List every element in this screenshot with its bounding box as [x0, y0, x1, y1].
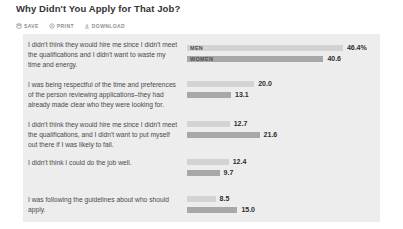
women-bar: [187, 170, 220, 176]
download-icon: [84, 23, 90, 29]
men-bar-line: 20.0: [187, 80, 272, 87]
women-value: 15.0: [241, 206, 255, 213]
toolbar: SAVE PRINT DOWNLOAD: [16, 23, 125, 29]
page: Why Didn't You Apply for That Job? SAVE …: [0, 0, 403, 229]
men-bar: MEN: [187, 45, 343, 51]
question-label: I was following the guidelines about who…: [28, 195, 180, 215]
women-bar-line: 21.6: [187, 131, 277, 138]
question-label: I didn't think they would hire me since …: [28, 120, 180, 150]
men-series-label: MEN: [190, 45, 203, 51]
women-bar: [187, 92, 231, 98]
chart-panel: I didn't think they would hire me since …: [23, 34, 380, 222]
bar-group: 8.5 15.0: [187, 195, 255, 217]
women-value: 21.6: [264, 131, 278, 138]
question-label: I didn't think they would hire me since …: [28, 40, 180, 70]
chart-row: I was being respectful of the time and p…: [28, 80, 380, 110]
bar-group: 12.7 21.6: [187, 120, 277, 142]
men-value: 20.0: [258, 80, 272, 87]
download-button[interactable]: DOWNLOAD: [84, 23, 125, 29]
women-bar: WOMEN: [187, 56, 323, 62]
chart-rows: I didn't think they would hire me since …: [28, 40, 380, 217]
bar-group: 12.4 9.7: [187, 158, 246, 180]
page-title: Why Didn't You Apply for That Job?: [16, 3, 180, 14]
men-value: 46.4%: [347, 44, 367, 51]
question-label: I was being respectful of the time and p…: [28, 80, 180, 110]
bar-group: 20.0 13.1: [187, 80, 272, 102]
men-bar-line: 12.7: [187, 120, 277, 127]
women-bar: [187, 132, 260, 138]
chart-row: I didn't think they would hire me since …: [28, 40, 380, 70]
men-value: 8.5: [220, 195, 230, 202]
women-value: 9.7: [224, 169, 234, 176]
men-bar: [187, 159, 229, 165]
women-value: 13.1: [235, 91, 249, 98]
chart-row: I was following the guidelines about who…: [28, 195, 380, 217]
women-bar-line: WOMEN 40.6: [187, 55, 367, 62]
men-value: 12.7: [234, 120, 248, 127]
women-bar-line: 13.1: [187, 91, 272, 98]
men-value: 12.4: [233, 158, 247, 165]
women-series-label: WOMEN: [190, 56, 213, 62]
men-bar: [187, 196, 216, 202]
women-bar: [187, 207, 237, 213]
print-label: PRINT: [57, 23, 74, 29]
save-label: SAVE: [24, 23, 39, 29]
question-label: I didn't think I could do the job well.: [28, 158, 180, 168]
chart-row: I didn't think they would hire me since …: [28, 120, 380, 150]
download-label: DOWNLOAD: [92, 23, 125, 29]
women-value: 40.6: [327, 55, 341, 62]
women-bar-line: 15.0: [187, 206, 255, 213]
men-bar-line: 12.4: [187, 158, 246, 165]
men-bar: [187, 81, 254, 87]
save-icon: [16, 23, 22, 29]
men-bar-line: 8.5: [187, 195, 255, 202]
men-bar-line: MEN 46.4%: [187, 44, 367, 51]
save-button[interactable]: SAVE: [16, 23, 39, 29]
bar-group: MEN 46.4% WOMEN 40.6: [187, 44, 367, 66]
men-bar: [187, 121, 230, 127]
print-icon: [49, 23, 55, 29]
chart-row: I didn't think I could do the job well. …: [28, 158, 380, 180]
women-bar-line: 9.7: [187, 169, 246, 176]
print-button[interactable]: PRINT: [49, 23, 74, 29]
